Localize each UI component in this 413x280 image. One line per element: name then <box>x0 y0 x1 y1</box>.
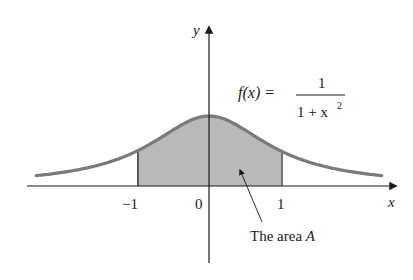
function-label-exponent: 2 <box>337 100 342 111</box>
function-label-numerator: 1 <box>318 75 326 91</box>
annotation-var: A <box>305 228 316 244</box>
function-label-denominator: 1 + x <box>297 104 328 120</box>
tick-label-neg1: −1 <box>122 196 138 212</box>
annotation-prefix: The area <box>250 228 306 244</box>
tick-label-0: 0 <box>195 196 203 212</box>
x-axis-label: x <box>387 194 395 210</box>
annotation-text: The area A <box>250 228 316 244</box>
figure-canvas: y x −1 0 1 f(x) = 1 1 + x 2 The area A <box>0 0 413 280</box>
y-axis-label: y <box>191 22 200 38</box>
function-label-lhs: f(x) = <box>238 84 275 102</box>
denominator-base: 1 + x <box>297 104 328 120</box>
tick-label-1: 1 <box>277 196 285 212</box>
